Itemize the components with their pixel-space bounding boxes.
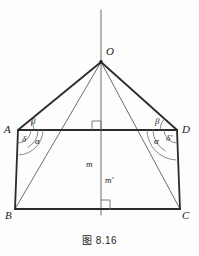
- vertex-dot-O: [99, 60, 103, 64]
- bottom-right-angle: [101, 200, 110, 209]
- vertex-label-O: O: [106, 46, 114, 57]
- geometry-drawing: [0, 0, 199, 256]
- length-label-m: m: [86, 160, 93, 169]
- segment-D-to-C: [177, 130, 180, 209]
- arc-beta-right: [160, 119, 164, 130]
- segment-O-to-D: [101, 62, 177, 130]
- top-right-angle: [92, 121, 101, 130]
- segment-A-to-B: [15, 130, 18, 209]
- angle-label-beta-left: β: [31, 117, 35, 126]
- length-label-m-prime: m′: [105, 176, 113, 185]
- angle-label-alpha-right: α: [154, 137, 159, 146]
- figure-container: O A D B C β δ α β α δ′ m m′ 图 8.16: [0, 0, 199, 256]
- angle-label-delta-left: δ: [22, 135, 26, 144]
- figure-caption: 图 8.16: [0, 232, 199, 247]
- vertex-label-D: D: [182, 124, 190, 135]
- segment-O-to-B: [15, 62, 101, 209]
- vertex-label-A: A: [4, 124, 11, 135]
- vertex-label-C: C: [182, 210, 189, 221]
- vertex-label-B: B: [5, 210, 12, 221]
- angle-label-beta-right: β: [155, 117, 159, 126]
- angle-label-alpha-left: α: [35, 137, 40, 146]
- angle-label-delta-prime-right: δ′: [166, 134, 172, 143]
- angle-arc-group: [18, 119, 176, 160]
- vertex-dot-group: [99, 60, 103, 64]
